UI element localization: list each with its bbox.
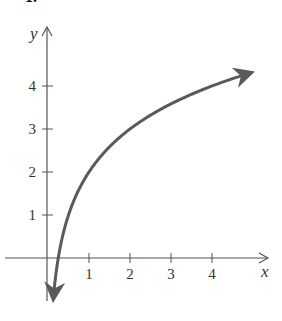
tick-labels: 12341234 (29, 78, 217, 282)
ticks (42, 86, 212, 263)
x-tick-label: 1 (85, 266, 93, 282)
y-tick-label: 1 (29, 207, 37, 223)
x-axis-label: x (260, 262, 269, 281)
y-tick-label: 4 (29, 78, 37, 94)
log-function-plot: 12341234 y x (0, 0, 282, 321)
x-tick-label: 2 (126, 266, 134, 282)
y-tick-label: 2 (29, 164, 37, 180)
function-curve (53, 73, 251, 299)
axes (5, 27, 268, 301)
y-tick-label: 3 (29, 121, 37, 137)
y-axis-label: y (28, 24, 38, 43)
x-tick-label: 3 (167, 266, 175, 282)
x-tick-label: 4 (208, 266, 216, 282)
